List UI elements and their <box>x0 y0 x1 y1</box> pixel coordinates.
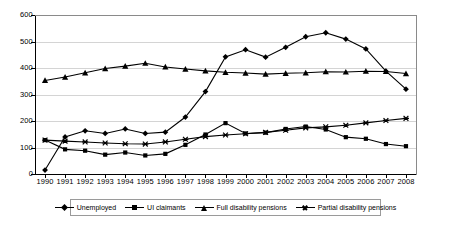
legend-item-ui-claimants[interactable]: UI claimants <box>125 204 186 212</box>
series-unemployed <box>42 30 409 173</box>
data-point-diamond <box>303 34 309 40</box>
data-point-square <box>83 149 87 153</box>
legend-marker-square-icon <box>125 204 144 212</box>
data-point-diamond <box>122 126 128 132</box>
data-point-diamond <box>223 54 229 60</box>
legend-marker-triangle-icon <box>195 204 214 212</box>
data-point-square <box>123 150 127 154</box>
legend-label: Partial disability pensions <box>318 204 397 212</box>
data-point-cross <box>142 142 148 147</box>
data-point-diamond <box>263 54 269 60</box>
series-ui-claimants <box>43 121 408 158</box>
legend-item-full-disability-pensions[interactable]: Full disability pensions <box>195 204 287 212</box>
data-point-cross <box>82 140 88 145</box>
data-point-cross <box>363 120 369 125</box>
data-point-cross <box>102 141 108 146</box>
data-point-diamond <box>42 167 48 173</box>
series-full-disability-pensions <box>42 60 409 83</box>
data-point-diamond <box>343 36 349 42</box>
legend-marker-cross-icon <box>296 204 315 212</box>
data-point-cross <box>182 137 188 142</box>
series-line <box>45 123 406 155</box>
data-point-cross <box>403 116 409 121</box>
data-point-square <box>384 142 388 146</box>
series-partial-disability-pensions <box>42 116 409 147</box>
legend-marker-diamond-icon <box>55 204 74 212</box>
data-point-cross <box>223 133 229 138</box>
legend-item-unemployed[interactable]: Unemployed <box>55 204 116 212</box>
data-point-square <box>404 144 408 148</box>
legend-item-partial-disability-pensions[interactable]: Partial disability pensions <box>296 204 397 212</box>
data-point-diamond <box>243 47 249 53</box>
data-point-square <box>143 153 147 157</box>
data-point-cross <box>383 118 389 123</box>
data-point-square <box>223 121 227 125</box>
data-point-diamond <box>82 128 88 134</box>
series-layer <box>0 0 451 227</box>
data-point-diamond <box>283 44 289 50</box>
data-point-diamond <box>142 131 148 137</box>
legend-label: Full disability pensions <box>217 204 287 212</box>
legend-label: Unemployed <box>77 204 116 212</box>
chart-legend: UnemployedUI claimantsFull disability pe… <box>70 199 381 216</box>
data-point-square <box>63 147 67 151</box>
data-point-square <box>364 137 368 141</box>
legend-label: UI claimants <box>147 204 186 212</box>
line-chart: 0100200300400500600 19901991199219931994… <box>0 0 451 227</box>
data-point-square <box>163 152 167 156</box>
data-point-cross <box>343 123 349 128</box>
data-point-square <box>103 153 107 157</box>
data-point-diamond <box>102 131 108 137</box>
data-point-square <box>344 135 348 139</box>
data-point-diamond <box>323 30 329 36</box>
data-point-square <box>183 143 187 147</box>
data-point-cross <box>162 140 168 145</box>
data-point-cross <box>122 141 128 146</box>
series-line <box>45 33 406 170</box>
